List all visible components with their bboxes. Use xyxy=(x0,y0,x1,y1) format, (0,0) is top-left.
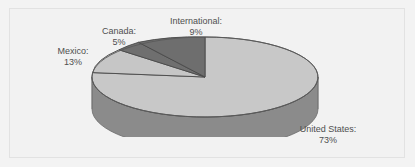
pie-label-mexico-name: Mexico: xyxy=(40,46,106,57)
pie-label-canada-name: Canada: xyxy=(84,26,154,37)
pie-label-mexico-value: 13% xyxy=(40,57,106,68)
pie-chart-screenshot: International: 9% Canada: 5% Mexico: 13%… xyxy=(0,0,415,167)
pie-top-surface xyxy=(92,37,318,117)
pie-label-international-name: International: xyxy=(156,16,236,27)
pie-label-united-states-value: 73% xyxy=(276,135,380,146)
pie-label-united-states-name: United States: xyxy=(276,124,380,135)
pie-label-canada: Canada: 5% xyxy=(84,26,154,47)
pie-label-international-value: 9% xyxy=(156,27,236,38)
pie-label-mexico: Mexico: 13% xyxy=(40,46,106,67)
pie-label-united-states: United States: 73% xyxy=(276,124,380,145)
pie-label-international: International: 9% xyxy=(156,16,236,37)
